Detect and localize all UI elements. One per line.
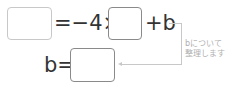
bracket-top: [169, 23, 181, 24]
answer-box-3[interactable]: [70, 48, 115, 82]
answer-box-1[interactable]: [7, 7, 52, 40]
answer-box-2[interactable]: [108, 7, 142, 40]
arrow-left-icon: [118, 62, 122, 66]
annotation-line-1: bについて: [185, 39, 222, 49]
bracket-vertical: [181, 23, 182, 65]
bracket-bottom: [121, 64, 182, 65]
annotation-line-2: 整理します: [185, 49, 225, 59]
